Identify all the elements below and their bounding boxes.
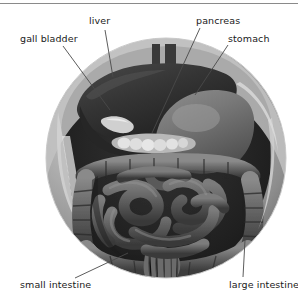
torso-cross-section — [46, 38, 286, 292]
stomach-highlight — [172, 104, 220, 132]
digestive-system-illustration — [0, 0, 298, 301]
anatomy-figure-page: gall bladder liver pancreas stomach smal… — [0, 0, 298, 301]
label-small-intestine: small intestine — [20, 279, 91, 290]
label-gall-bladder: gall bladder — [20, 33, 78, 44]
label-large-intestine: large intestine — [229, 279, 298, 290]
label-stomach: stomach — [228, 33, 270, 44]
label-pancreas: pancreas — [196, 15, 240, 26]
label-liver: liver — [89, 15, 110, 26]
